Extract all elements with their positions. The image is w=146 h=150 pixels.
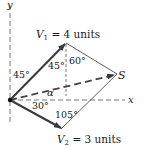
angle-top: 60° <box>69 55 86 66</box>
angle-v2-from-x: 30° <box>32 100 49 111</box>
angle-v1-inner: 45° <box>48 60 65 71</box>
angle-alpha: α <box>47 87 54 98</box>
angle-v1-from-y: 45° <box>13 69 30 80</box>
s-label: S <box>118 69 126 82</box>
x-axis-label: x <box>128 94 134 105</box>
v2-label: V2 = 3 units <box>57 133 121 147</box>
angle-bottom: 105° <box>55 109 78 120</box>
vector-addition-diagram: y x V1 = 4 units V2 = 3 units S 45° 45° … <box>0 0 146 150</box>
y-axis-label: y <box>6 0 13 10</box>
v1-label: V1 = 4 units <box>36 28 100 42</box>
v2-to-s-side <box>61 74 117 129</box>
origin-point <box>8 98 12 102</box>
